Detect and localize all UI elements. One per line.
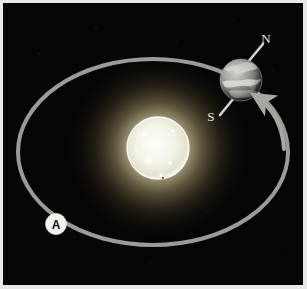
earth-axis-north-segment bbox=[248, 44, 263, 62]
north-pole-label: N bbox=[261, 31, 271, 46]
marker-a-label: A bbox=[52, 218, 61, 232]
space-background: N S A bbox=[3, 3, 303, 285]
orbit-position-marker-a[interactable]: A bbox=[46, 214, 67, 235]
south-pole-label: S bbox=[207, 109, 214, 124]
figure-frame: N S A bbox=[0, 0, 307, 289]
sun bbox=[127, 117, 189, 179]
orbit-diagram-scene: N S A bbox=[3, 3, 303, 285]
